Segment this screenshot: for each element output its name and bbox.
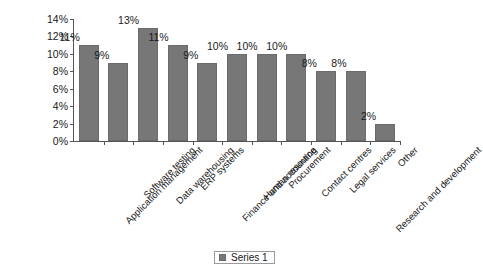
x-tick-mark: [133, 141, 134, 145]
y-tick-mark: [70, 19, 74, 20]
bar: [316, 71, 336, 141]
bar-value-label: 10%: [266, 40, 287, 51]
bar-value-label: 9%: [183, 49, 198, 60]
y-tick-mark: [70, 124, 74, 125]
x-tick-mark: [400, 141, 401, 145]
x-tick-mark: [252, 141, 253, 145]
x-tick-mark: [341, 141, 342, 145]
x-tick-mark: [370, 141, 371, 145]
bar-value-label: 2%: [361, 110, 376, 121]
x-tick-mark: [104, 141, 105, 145]
y-tick-mark: [70, 54, 74, 55]
y-tick-mark: [70, 141, 74, 142]
y-tick-mark: [70, 89, 74, 90]
y-tick-label: 6%: [53, 83, 68, 94]
bar: [227, 54, 247, 141]
y-tick-label: 0%: [53, 136, 68, 147]
plot-area: 0%2%4%6%8%10%12%14%11%9%13%11%9%10%10%10…: [74, 19, 400, 141]
bar-value-label: 8%: [302, 58, 317, 69]
bar-value-label: 11%: [148, 32, 168, 43]
x-tick-mark: [222, 141, 223, 145]
bar: [108, 63, 128, 141]
bar-value-label: 11%: [60, 32, 80, 43]
x-axis-line: [73, 141, 401, 142]
legend-swatch-series-1: [219, 254, 226, 261]
bar: [257, 54, 277, 141]
bar: [375, 124, 395, 141]
bar: [346, 71, 366, 141]
y-tick-mark: [70, 71, 74, 72]
bar-value-label: 10%: [237, 40, 258, 51]
y-tick-mark: [70, 106, 74, 107]
bar: [138, 28, 158, 141]
bar-value-label: 8%: [331, 58, 346, 69]
x-tick-mark: [163, 141, 164, 145]
y-tick-label: 4%: [53, 101, 68, 112]
y-tick-label: 10%: [47, 49, 68, 60]
bar: [197, 63, 217, 141]
x-tick-mark: [281, 141, 282, 145]
legend-label-series-1: Series 1: [231, 253, 268, 263]
bar-value-label: 9%: [94, 49, 109, 60]
x-tick-mark: [193, 141, 194, 145]
y-tick-label: 2%: [53, 118, 68, 129]
bar-value-label: 13%: [118, 14, 139, 25]
bar-value-label: 10%: [207, 40, 228, 51]
y-tick-label: 8%: [53, 66, 68, 77]
y-tick-label: 14%: [47, 14, 68, 25]
x-category-label: Other: [396, 145, 420, 169]
chart-legend: Series 1: [214, 251, 275, 264]
